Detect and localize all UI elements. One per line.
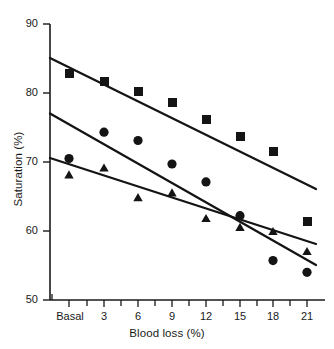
- x-tick-label-9: 9: [160, 310, 184, 322]
- y-tick-label-50: 50: [12, 293, 38, 305]
- y-tick-label-90: 90: [12, 17, 38, 29]
- x-tick-label-6: 6: [126, 310, 150, 322]
- axes: [50, 24, 325, 300]
- x-tick-label-15: 15: [228, 310, 252, 322]
- plot-area: [0, 0, 334, 349]
- trend-line-triangles: [50, 158, 316, 244]
- trend-line-circles: [50, 114, 316, 266]
- x-tick-label-12: 12: [194, 310, 218, 322]
- x-axis-title: Blood loss (%): [0, 327, 334, 339]
- x-tick-label-3: 3: [92, 310, 116, 322]
- y-axis-title: Saturation (%): [12, 89, 24, 249]
- x-tick-label-21: 21: [295, 310, 319, 322]
- chart-figure: 90 80 70 60 50 Basal 3 6 9 12 15 18 21 B…: [0, 0, 334, 349]
- x-tick-label-18: 18: [261, 310, 285, 322]
- trend-line-squares: [50, 58, 316, 189]
- y-axis-ticks: [43, 24, 50, 300]
- x-tick-label-basal: Basal: [44, 310, 96, 322]
